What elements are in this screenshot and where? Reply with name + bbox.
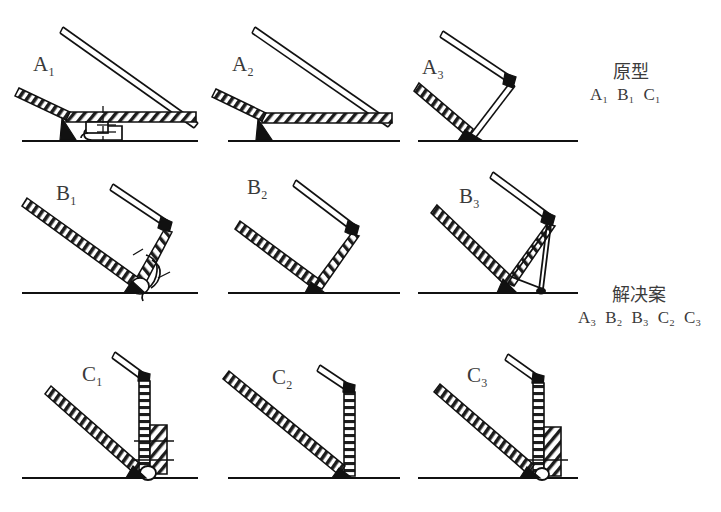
solution-items: A₃B₂B₃C₂C₃: [578, 308, 710, 328]
panel-label-A1: A1: [33, 52, 55, 80]
panel-C2: [223, 365, 400, 478]
panel-label-B3-sub: 3: [473, 197, 479, 211]
panel-label-A2-sub: 2: [247, 65, 253, 79]
lower-bar: [434, 384, 534, 474]
vertical-post: [344, 392, 355, 476]
panel-A3: [414, 31, 578, 141]
upper-bar: [440, 31, 512, 82]
lower-bar: [235, 221, 320, 289]
latch-detail: [81, 106, 122, 140]
strut: [470, 84, 515, 137]
panel-label-B1-sub: 1: [70, 194, 76, 208]
panel-label-B2-sub: 2: [261, 188, 267, 202]
prototype-title: 原型: [613, 57, 649, 83]
panel-label-C1-letter: C: [82, 362, 96, 386]
lower-bar: [431, 205, 512, 286]
lower-bar: [15, 88, 70, 120]
vertical-post: [533, 383, 544, 475]
panel-label-C2: C2: [272, 365, 292, 393]
solution-item-1: B₂: [605, 308, 622, 328]
panel-label-C2-letter: C: [272, 365, 286, 389]
solution-item-3: C₂: [658, 308, 675, 328]
panel-label-C3-letter: C: [467, 363, 481, 387]
prototype-item-1: B₁: [617, 85, 634, 105]
hatched-beam: [66, 112, 196, 122]
upper-bar: [293, 180, 355, 230]
panel-label-B3: B3: [459, 184, 479, 212]
lower-bar: [45, 386, 140, 473]
panel-label-A2: A2: [232, 52, 254, 80]
lower-bar: [22, 198, 140, 288]
panel-label-B2-letter: B: [247, 175, 261, 199]
panel-C1: [22, 352, 198, 480]
panel-label-A3: A3: [422, 55, 444, 83]
lower-bar: [212, 89, 266, 121]
solution-item-0: A₃: [578, 308, 596, 328]
panel-label-A3-sub: 3: [437, 68, 443, 82]
panel-label-C1: C1: [82, 362, 102, 390]
panel-label-C1-sub: 1: [96, 375, 102, 389]
panel-label-C3: C3: [467, 363, 487, 391]
upper-bar: [110, 184, 168, 226]
prototype-item-0: A₁: [590, 85, 608, 105]
figure-canvas: A1 A2 A3 B1 B2 B3 C1 C2 C3 原型 A₁B₁C₁ 解决案…: [0, 0, 721, 512]
panel-label-A1-sub: 1: [48, 65, 54, 79]
panel-A1: [15, 27, 198, 141]
panel-B1: [22, 184, 198, 301]
upper-bar: [490, 172, 551, 220]
lower-bar: [414, 83, 473, 137]
panel-label-C2-sub: 2: [286, 378, 292, 392]
solution-item-2: B₃: [631, 308, 648, 328]
panel-label-B3-letter: B: [459, 184, 473, 208]
panel-label-A2-letter: A: [232, 52, 247, 76]
panel-label-B1-letter: B: [56, 181, 70, 205]
prototype-item-2: C₁: [643, 85, 660, 105]
upper-bar: [252, 27, 392, 127]
hatched-beam: [262, 113, 392, 123]
panel-B3: [418, 172, 578, 295]
prototype-items: A₁B₁C₁: [590, 85, 670, 105]
solution-item-4: C₃: [684, 308, 701, 328]
panel-label-C3-sub: 3: [481, 376, 487, 390]
brace-foot: [536, 288, 546, 295]
panel-A2: [212, 27, 400, 141]
panel-label-A3-letter: A: [422, 55, 437, 79]
panel-C3: [418, 354, 578, 480]
panel-label-A1-letter: A: [33, 52, 48, 76]
panel-label-B2: B2: [247, 175, 267, 203]
solution-title: 解决案: [612, 280, 666, 306]
panel-label-B1: B1: [56, 181, 76, 209]
